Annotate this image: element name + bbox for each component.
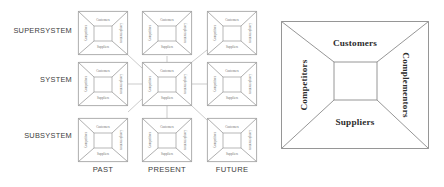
value-net-cell-supersystem-future: CustomersSuppliersCompetitorsComplemento… — [207, 11, 257, 55]
value-net-cell-subsystem-past: CustomersSuppliersCompetitorsComplemento… — [78, 118, 128, 162]
mini-label-suppliers: Suppliers — [226, 152, 239, 156]
mini-label-competitors: Competitors — [84, 24, 88, 41]
value-net-cell-supersystem-past: CustomersSuppliersCompetitorsComplemento… — [78, 11, 128, 55]
mini-label-complementors: Complementors — [119, 74, 123, 95]
mini-label-competitors: Competitors — [148, 24, 152, 41]
mini-label-complementors: Complementors — [183, 23, 187, 44]
mini-label-competitors: Competitors — [148, 131, 152, 148]
mini-label-complementors: Complementors — [119, 130, 123, 151]
mini-label-competitors: Competitors — [84, 131, 88, 148]
mini-diagonal-bottom-left — [207, 148, 223, 162]
mini-label-competitors: Competitors — [213, 75, 217, 92]
value-net-cell-subsystem-future: CustomersSuppliersCompetitorsComplemento… — [207, 118, 257, 162]
value-net-cell-supersystem-present: CustomersSuppliersCompetitorsComplemento… — [142, 11, 192, 55]
mini-diagonal-bottom-left — [142, 41, 158, 55]
mini-diagonal-top-left — [142, 11, 158, 26]
row-label-supersystem: SUPERSYSTEM — [2, 27, 72, 34]
mini-inner-rectangle — [94, 133, 112, 148]
mini-diagonal-top-left — [78, 62, 94, 77]
mini-label-customers: Customers — [96, 125, 110, 129]
col-label-past: PAST — [78, 166, 128, 174]
mini-inner-rectangle — [94, 77, 112, 92]
mini-label-competitors: Competitors — [213, 131, 217, 148]
col-label-future: FUTURE — [207, 166, 257, 174]
mini-label-complementors: Complementors — [248, 23, 252, 44]
mini-label-customers: Customers — [225, 18, 239, 22]
mini-diagonal-bottom-left — [78, 41, 94, 55]
mini-inner-rectangle — [158, 77, 176, 92]
value-net-cell-subsystem-present: CustomersSuppliersCompetitorsComplemento… — [142, 118, 192, 162]
mini-label-suppliers: Suppliers — [226, 45, 239, 49]
mini-label-suppliers: Suppliers — [97, 152, 110, 156]
mini-label-suppliers: Suppliers — [97, 45, 110, 49]
value-net-cell-system-past: CustomersSuppliersCompetitorsComplemento… — [78, 62, 128, 106]
mini-label-complementors: Complementors — [183, 74, 187, 95]
mini-inner-rectangle — [158, 26, 176, 41]
inner-rectangle — [334, 62, 377, 100]
link-diagonal-b — [192, 106, 207, 120]
mini-diagonal-top-left — [207, 62, 223, 77]
mini-diagonal-top-left — [207, 118, 223, 133]
value-net-matrix-figure: SUPERSYSTEM SYSTEM SUBSYSTEM PAST PRESEN… — [0, 0, 444, 187]
row-label-subsystem: SUBSYSTEM — [2, 132, 72, 139]
row-label-system: SYSTEM — [2, 76, 72, 83]
mini-label-complementors: Complementors — [248, 74, 252, 95]
mini-label-complementors: Complementors — [119, 23, 123, 44]
mini-label-suppliers: Suppliers — [161, 152, 174, 156]
mini-diagonal-top-left — [78, 11, 94, 26]
mini-label-customers: Customers — [160, 69, 174, 73]
mini-diagonal-bottom-left — [207, 41, 223, 55]
mini-diagonal-top-left — [142, 62, 158, 77]
mini-diagonal-top-left — [142, 118, 158, 133]
mini-diagonal-bottom-left — [207, 92, 223, 106]
mini-diagonal-top-left — [207, 11, 223, 26]
mini-label-suppliers: Suppliers — [161, 96, 174, 100]
mini-diagonal-bottom-left — [78, 148, 94, 162]
mini-inner-rectangle — [223, 26, 241, 41]
mini-diagonal-bottom-left — [142, 148, 158, 162]
value-net-cell-system-present: CustomersSuppliersCompetitorsComplemento… — [142, 62, 192, 106]
mini-label-customers: Customers — [96, 18, 110, 22]
mini-label-customers: Customers — [160, 125, 174, 129]
mini-label-competitors: Competitors — [84, 75, 88, 92]
mini-label-competitors: Competitors — [148, 75, 152, 92]
label-suppliers: Suppliers — [335, 117, 374, 127]
col-label-present: PRESENT — [142, 166, 192, 174]
link-diagonal-c — [128, 99, 142, 112]
mini-label-complementors: Complementors — [183, 130, 187, 151]
label-customers: Customers — [333, 38, 377, 48]
mini-inner-rectangle — [223, 77, 241, 92]
mini-label-suppliers: Suppliers — [226, 96, 239, 100]
mini-label-customers: Customers — [96, 69, 110, 73]
mini-label-suppliers: Suppliers — [97, 96, 110, 100]
diagonal-top-left — [282, 22, 335, 63]
mini-diagonal-bottom-left — [78, 92, 94, 106]
mini-label-customers: Customers — [160, 18, 174, 22]
mini-label-customers: Customers — [225, 125, 239, 129]
mini-inner-rectangle — [158, 133, 176, 148]
value-net-cell-system-future: CustomersSuppliersCompetitorsComplemento… — [207, 62, 257, 106]
mini-label-customers: Customers — [225, 69, 239, 73]
link-diagonal-d — [192, 50, 207, 62]
mini-label-complementors: Complementors — [248, 130, 252, 151]
mini-label-competitors: Competitors — [213, 24, 217, 41]
mini-inner-rectangle — [94, 26, 112, 41]
label-competitors: Competitors — [299, 59, 309, 110]
mini-diagonal-bottom-left — [142, 92, 158, 106]
link-diagonal-a — [128, 55, 142, 68]
label-complementors: Complementors — [401, 52, 411, 118]
mini-diagonal-top-left — [78, 118, 94, 133]
enlarged-value-net: Customers Suppliers Competitors Compleme… — [281, 21, 429, 149]
mini-inner-rectangle — [223, 133, 241, 148]
mini-label-suppliers: Suppliers — [161, 45, 174, 49]
